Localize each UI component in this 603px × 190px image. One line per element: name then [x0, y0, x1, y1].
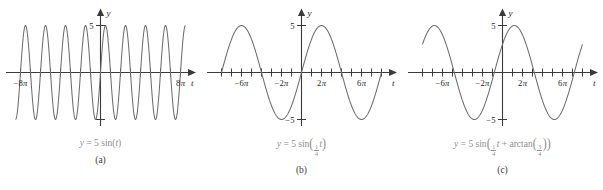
caption-formula-c: y = 5 sin(14t + arctan(34)) — [454, 138, 551, 158]
formula-equals: = — [283, 139, 288, 149]
x-axis-label: t — [593, 78, 596, 88]
x-axis-label: t — [392, 78, 395, 88]
formula-close-paren: ) — [547, 137, 551, 152]
x-axis-arrowhead — [590, 69, 598, 76]
y-axis-arrowhead — [499, 9, 506, 17]
x-tick-label: 6π — [357, 78, 367, 88]
formula-arctan: arctan — [509, 139, 532, 149]
formula-inner-open-paren: ( — [533, 137, 537, 152]
panel-letter-b: (b) — [296, 165, 307, 175]
formula-open-paren: ( — [309, 137, 313, 152]
formula-equals: = — [461, 139, 466, 149]
formula-function: sin — [298, 139, 309, 149]
y-axis-arrowhead — [298, 9, 305, 17]
y-axis-arrowhead — [97, 9, 104, 17]
x-tick-label: −8π — [14, 78, 29, 88]
panel-c: −6π−2π2π6π5−5yt y = 5 sin(14t + arctan(3… — [402, 0, 603, 190]
y-tick-label: −5 — [285, 115, 294, 125]
formula-open-paren: ( — [487, 137, 491, 152]
x-tick-label: −6π — [436, 78, 451, 88]
sine-plot-b: −6π−2π2π6π5−5yt — [201, 0, 402, 140]
panel-letter-c: (c) — [497, 165, 508, 175]
x-tick-label: 2π — [317, 78, 327, 88]
x-axis-arrowhead — [188, 69, 196, 76]
y-tick-label: 5 — [89, 21, 93, 31]
formula-plus: + — [502, 139, 507, 149]
sine-plot-a: −8π8π5yt — [0, 0, 201, 140]
y-tick-label: −5 — [486, 115, 495, 125]
plot-area-b: −6π−2π2π6π5−5yt — [201, 0, 402, 140]
formula-fraction: 14 — [491, 144, 496, 157]
x-axis-label: t — [191, 78, 194, 88]
fraction-denominator: 4 — [491, 150, 496, 157]
x-tick-label: −6π — [235, 78, 250, 88]
figure-row: −8π8π5yt y = 5 sin(t) (a) −6π−2π2π6π5−5y… — [0, 0, 603, 190]
x-tick-label: 8π — [176, 78, 186, 88]
plot-area-a: −8π8π5yt — [0, 0, 201, 140]
x-axis-arrowhead — [389, 69, 397, 76]
panel-a: −8π8π5yt y = 5 sin(t) (a) — [0, 0, 201, 190]
formula-amplitude: 5 — [468, 139, 473, 149]
x-tick-label: −2π — [476, 78, 491, 88]
y-axis-label: y — [106, 8, 111, 18]
y-tick-label: 5 — [491, 21, 495, 31]
formula-arctan-fraction: 34 — [537, 144, 542, 157]
panel-letter-a: (a) — [95, 155, 106, 165]
sine-plot-c: −6π−2π2π6π5−5yt — [402, 0, 603, 140]
formula-lhs: y — [454, 139, 458, 149]
y-tick-label: 5 — [290, 21, 294, 31]
x-tick-label: 6π — [558, 78, 568, 88]
x-tick-label: 2π — [518, 78, 528, 88]
formula-lhs: y — [277, 139, 281, 149]
panel-b: −6π−2π2π6π5−5yt y = 5 sin(14t) (b) — [201, 0, 402, 190]
y-axis-label: y — [307, 8, 312, 18]
formula-amplitude: 5 — [291, 139, 296, 149]
caption-formula-b: y = 5 sin(14t) — [277, 138, 326, 158]
formula-close-paren: ) — [322, 137, 326, 152]
fraction-denominator: 4 — [537, 150, 542, 157]
x-tick-label: −2π — [275, 78, 290, 88]
formula-argument: t — [497, 139, 500, 149]
formula-function: sin — [476, 139, 487, 149]
plot-area-c: −6π−2π2π6π5−5yt — [402, 0, 603, 140]
fraction-denominator: 4 — [314, 150, 319, 157]
y-axis-label: y — [508, 8, 513, 18]
